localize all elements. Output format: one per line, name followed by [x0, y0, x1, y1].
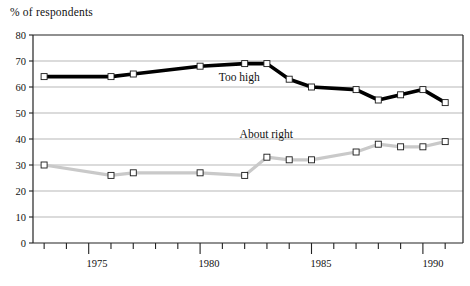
data-point-marker [286, 157, 292, 163]
data-point-marker [353, 87, 359, 93]
series-line-too-high [44, 64, 445, 103]
data-point-marker [375, 141, 381, 147]
series-line-about-right [44, 142, 445, 176]
data-point-marker [130, 71, 136, 77]
data-point-marker [442, 100, 448, 106]
data-point-marker [264, 61, 270, 67]
data-point-marker [375, 97, 381, 103]
chart-container: % of respondents 80 70 60 50 40 30 20 10… [0, 0, 470, 286]
data-point-marker [286, 76, 292, 82]
data-point-marker [108, 74, 114, 80]
data-point-marker [41, 162, 47, 168]
data-point-marker [420, 87, 426, 93]
data-point-marker [197, 170, 203, 176]
data-point-marker [108, 172, 114, 178]
data-point-marker [197, 63, 203, 69]
data-point-marker [309, 84, 315, 90]
data-point-marker [130, 170, 136, 176]
data-point-marker [41, 74, 47, 80]
data-point-marker [309, 157, 315, 163]
data-point-marker [353, 149, 359, 155]
data-point-marker [242, 61, 248, 67]
plot-area [0, 0, 470, 286]
data-point-marker [264, 154, 270, 160]
data-point-marker [442, 139, 448, 145]
data-point-marker [242, 172, 248, 178]
data-point-marker [398, 92, 404, 98]
data-point-marker [398, 144, 404, 150]
data-point-marker [420, 144, 426, 150]
